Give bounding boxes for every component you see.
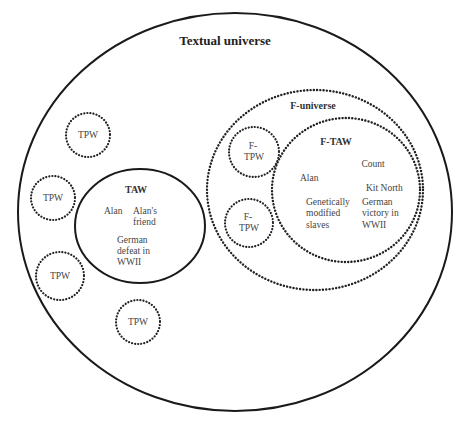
f-taw-kit-north: Kit North <box>366 183 403 193</box>
f-tpw-circle: F- TPW <box>229 127 279 177</box>
taw-german-defeat-line2: defeat in <box>117 246 150 256</box>
taw-label: TAW <box>125 184 147 195</box>
f-taw-count: Count <box>361 159 385 169</box>
f-tpw-label-line1: F- <box>249 141 257 151</box>
tpw-label: TPW <box>128 317 148 327</box>
taw: TAW Alan Alan's friend German defeat in … <box>75 169 205 283</box>
f-taw-victory-line3: WWII <box>362 220 386 230</box>
f-tpw-label-line2: TPW <box>239 223 259 233</box>
f-tpw-label-line2: TPW <box>244 152 264 162</box>
f-universe-label: F-universe <box>290 100 336 111</box>
f-taw: F-TAW Count Alan Kit North Genetically m… <box>272 118 420 262</box>
taw-alan: Alan <box>104 206 123 216</box>
f-universe: F-universe F- TPW F- TPW F-TAW Count Ala… <box>207 90 423 290</box>
f-tpw-circle: F- TPW <box>225 199 273 247</box>
f-taw-victory-line1: German <box>362 197 393 207</box>
textual-universe-label: Textual universe <box>179 33 271 48</box>
f-taw-slaves-line3: slaves <box>306 220 330 230</box>
tpw-circle: TPW <box>31 176 75 220</box>
f-taw-alan: Alan <box>300 173 319 183</box>
taw-german-defeat-line1: German <box>117 235 148 245</box>
tpw-circle: TPW <box>116 300 160 344</box>
tpw-circle: TPW <box>36 252 84 300</box>
taw-alans-friend-line2: friend <box>133 217 156 227</box>
f-taw-slaves-line1: Genetically <box>306 197 350 207</box>
tpw-circle: TPW <box>66 113 110 157</box>
taw-alans-friend-line1: Alan's <box>133 206 157 216</box>
f-taw-label: F-TAW <box>320 136 351 147</box>
f-tpw-label-line1: F- <box>244 212 252 222</box>
f-taw-victory-line2: victory in <box>362 208 399 218</box>
tpw-label: TPW <box>78 130 98 140</box>
tpw-label: TPW <box>43 193 63 203</box>
f-taw-slaves-line2: modified <box>306 208 341 218</box>
taw-german-defeat-line3: WWII <box>117 257 141 267</box>
textual-universe-diagram: Textual universe TPW TPW TPW TPW TAW Ala… <box>0 0 464 423</box>
tpw-label: TPW <box>50 271 70 281</box>
